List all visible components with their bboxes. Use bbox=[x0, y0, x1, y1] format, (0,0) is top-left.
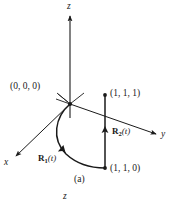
vector-r1-arg: (t) bbox=[48, 153, 57, 163]
z-axis-label-next-figure: z bbox=[63, 192, 67, 202]
y-axis-label: y bbox=[161, 130, 165, 140]
figure-container: z y x (0, 0, 0) (1, 1, 1) (1, 1, 0) R1(t… bbox=[0, 0, 173, 208]
z-axis-label-top: z bbox=[67, 2, 71, 12]
figure-caption: (a) bbox=[74, 175, 85, 185]
vector-r2-arg: (t) bbox=[122, 126, 131, 136]
origin-point-label: (0, 0, 0) bbox=[10, 82, 40, 92]
x-axis-label: x bbox=[4, 158, 8, 168]
diagram-canvas bbox=[0, 0, 173, 208]
point-111-marker bbox=[103, 93, 107, 97]
point-110-label: (1, 1, 0) bbox=[110, 164, 140, 174]
point-111-label: (1, 1, 1) bbox=[110, 89, 140, 99]
point-110-marker bbox=[103, 166, 107, 170]
vector-r1-label: R1(t) bbox=[38, 154, 56, 164]
origin-label-leader bbox=[58, 94, 68, 102]
x-axis-negative-stub bbox=[70, 93, 84, 104]
vector-r2-label: R2(t) bbox=[112, 127, 130, 137]
